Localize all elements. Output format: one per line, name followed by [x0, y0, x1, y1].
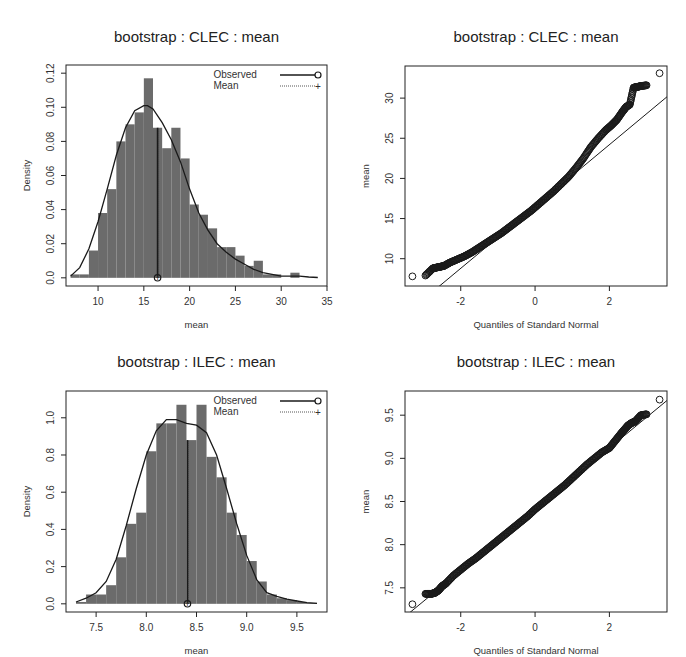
y-tick-label: 0.06 — [45, 165, 56, 185]
x-axis-label: Quantiles of Standard Normal — [473, 319, 598, 330]
qq-point — [656, 396, 663, 403]
chart-title: bootstrap : ILEC : mean — [117, 353, 275, 370]
mean-marker-icon: + — [155, 273, 160, 283]
x-tick-label: 2 — [607, 296, 613, 307]
histogram-bar — [176, 405, 186, 604]
mean-marker-icon: + — [185, 599, 190, 609]
legend-mean-label: Mean — [213, 80, 238, 91]
y-tick-label: 0.0 — [45, 596, 56, 610]
y-tick-label: 9.0 — [384, 451, 395, 465]
histogram-bar — [76, 602, 86, 604]
plot-area — [405, 70, 667, 315]
y-tick-label: 10 — [384, 253, 395, 265]
x-tick-label: 30 — [276, 296, 288, 307]
histogram-bar — [190, 204, 199, 277]
legend-observed-label: Observed — [213, 69, 256, 80]
y-tick-label: 15 — [384, 213, 395, 225]
histogram-bar — [116, 141, 125, 277]
y-tick-label: 30 — [384, 92, 395, 104]
x-axis-label: mean — [185, 645, 209, 656]
histogram-bar — [116, 557, 126, 604]
histogram-bar — [197, 405, 207, 604]
x-tick-label: 10 — [92, 296, 104, 307]
histogram-bar — [207, 457, 217, 604]
y-tick-label: 9.5 — [384, 408, 395, 422]
bootstrap-diagnostics-figure: bootstrap : CLEC : mean+ObservedMean+101… — [0, 0, 686, 657]
y-tick-label: 0.10 — [45, 97, 56, 117]
y-tick-label: 20 — [384, 172, 395, 184]
histogram-bar — [146, 451, 156, 604]
histogram-bar — [217, 477, 227, 603]
clec-histogram-panel: bootstrap : CLEC : mean+ObservedMean+101… — [21, 28, 333, 330]
qq-point — [656, 70, 663, 77]
histogram-bar — [106, 585, 116, 604]
histogram-bar — [98, 213, 107, 278]
y-tick-label: 0.4 — [45, 522, 56, 536]
x-axis-label: mean — [185, 319, 209, 330]
legend-observed-label: Observed — [213, 395, 256, 406]
x-tick-label: 0 — [532, 622, 538, 633]
y-tick-label: 0.0 — [45, 270, 56, 284]
clec-qq-plot-panel: bootstrap : CLEC : mean-2021015202530Qua… — [360, 28, 667, 330]
histogram-bar — [199, 215, 208, 278]
x-tick-label: 2 — [607, 622, 613, 633]
x-tick-label: -2 — [456, 296, 465, 307]
y-axis-label: Density — [21, 159, 32, 191]
y-tick-label: 8.0 — [384, 537, 395, 551]
qq-point — [409, 273, 416, 280]
legend-circle-icon — [315, 72, 321, 78]
x-tick-label: 9.0 — [240, 622, 254, 633]
legend-mean-label: Mean — [213, 406, 238, 417]
y-axis-label: mean — [360, 164, 371, 188]
x-tick-label: 8.0 — [139, 622, 153, 633]
y-tick-label: 25 — [384, 132, 395, 144]
histogram-bar — [166, 423, 176, 603]
x-tick-label: 15 — [138, 296, 150, 307]
histogram-bar — [245, 266, 254, 278]
y-tick-label: 8.5 — [384, 494, 395, 508]
histogram-bar — [126, 124, 135, 277]
x-tick-label: -2 — [456, 622, 465, 633]
histogram-bar — [257, 581, 267, 603]
y-tick-label: 0.2 — [45, 559, 56, 573]
histogram-bar — [237, 535, 247, 604]
qq-point — [409, 601, 416, 608]
histogram-bar — [162, 148, 171, 278]
histogram-bar — [226, 247, 235, 278]
legend-plus-icon: + — [315, 407, 321, 418]
histogram-bar — [135, 112, 144, 277]
ilec-qq-plot-panel: bootstrap : ILEC : mean-2027.58.08.59.09… — [360, 353, 667, 656]
x-axis-label: Quantiles of Standard Normal — [473, 645, 598, 656]
y-tick-label: 0.12 — [45, 63, 56, 83]
x-tick-label: 9.5 — [290, 622, 304, 633]
plot-area — [71, 78, 318, 278]
y-axis-label: mean — [360, 490, 371, 514]
y-tick-label: 0.08 — [45, 131, 56, 151]
histogram-bar — [107, 189, 116, 278]
histogram-bar — [80, 274, 89, 277]
y-tick-label: 1.0 — [45, 410, 56, 424]
histogram-bar — [89, 251, 98, 278]
y-tick-label: 0.8 — [45, 448, 56, 462]
histogram-bar — [290, 273, 299, 278]
legend-circle-icon — [315, 398, 321, 404]
histogram-bar — [96, 595, 106, 604]
histogram-bar — [126, 524, 136, 604]
histogram-bar — [136, 513, 146, 604]
y-tick-label: 0.02 — [45, 234, 56, 254]
chart-title: bootstrap : CLEC : mean — [114, 28, 279, 45]
legend-plus-icon: + — [315, 81, 321, 92]
x-tick-label: 8.5 — [190, 622, 204, 633]
x-tick-label: 0 — [532, 296, 538, 307]
y-tick-label: 0.6 — [45, 485, 56, 499]
x-tick-label: 25 — [230, 296, 242, 307]
histogram-bar — [263, 274, 272, 277]
chart-title: bootstrap : CLEC : mean — [453, 28, 618, 45]
x-tick-label: 20 — [184, 296, 196, 307]
histogram-bar — [235, 256, 244, 278]
plot-area — [405, 396, 667, 616]
histogram-bar — [227, 513, 237, 604]
ilec-histogram-panel: bootstrap : ILEC : mean+ObservedMean+7.5… — [21, 353, 327, 656]
histogram-bar — [156, 423, 166, 603]
y-axis-label: Density — [21, 485, 32, 517]
